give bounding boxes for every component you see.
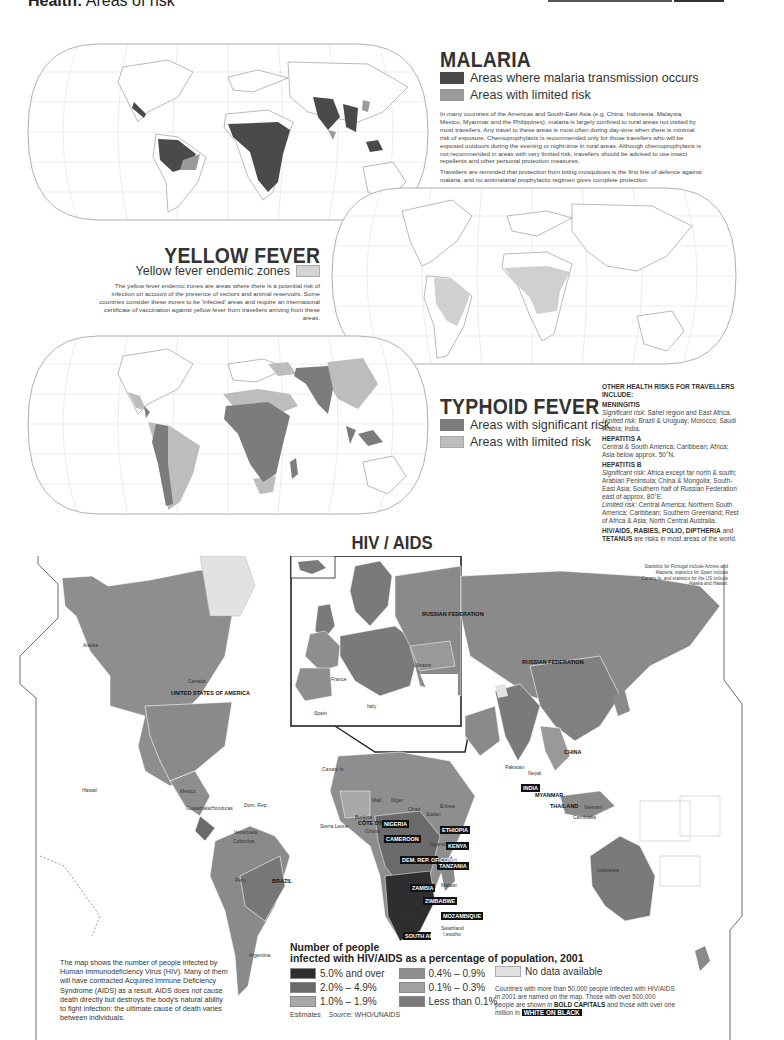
- map-label-canary-is: Canary Is.: [322, 766, 345, 772]
- map-label-china: CHINA: [564, 749, 581, 755]
- malaria-description: In many countries of the Americas and So…: [440, 110, 702, 184]
- map-label-mali: Mali: [372, 797, 381, 803]
- map-label-drc: DEM. REP. OF CONGO: [400, 856, 438, 864]
- map-label-nigeria: NIGERIA: [382, 820, 409, 828]
- map-label-alaska: Alaska: [83, 642, 98, 648]
- map-label-argentina: Argentina: [249, 952, 270, 958]
- map-label-france: France: [331, 676, 347, 682]
- map-label-colombia: Colombia: [233, 838, 254, 844]
- pacific-boundary: [40, 856, 100, 936]
- typhoid-legend-significant: Areas with significant risk: [440, 418, 610, 432]
- middle-east-region: [465, 706, 500, 756]
- legend-label: 0.1% – 0.3%: [429, 982, 486, 993]
- map-label-hawaii: Hawaii: [82, 787, 97, 793]
- legend-label: Areas with limited risk: [470, 88, 591, 102]
- map-label-zimbabwe: ZIMBABWE: [423, 897, 457, 905]
- swatch-typhoid-significant: [440, 419, 464, 431]
- map-label-venezuela: Venezuela: [234, 829, 257, 835]
- hiv-intro-text: The map shows the number of people infec…: [60, 958, 228, 1022]
- map-label-eritrea: Eritrea: [440, 803, 455, 809]
- estimates-label: Estimates: [290, 1011, 321, 1018]
- swatch-hiv-0-4-0-9: [399, 968, 425, 979]
- map-label-pakistan: Pakistan: [505, 764, 524, 770]
- inset-connector: [335, 726, 470, 752]
- map-frame-left: [20, 556, 58, 1040]
- map-label-russia: RUSSIAN FEDERATION: [522, 659, 584, 665]
- new-zealand-region: [695, 946, 710, 971]
- map-label-mexico: Mexico: [180, 788, 196, 794]
- map-label-south-africa: SOUTH AFRICA: [403, 932, 431, 940]
- source-value: WHO/UNAIDS: [353, 1011, 400, 1018]
- map-label-dom-rep: Dom. Rep.: [244, 802, 268, 808]
- swatch-yellow-fever: [296, 265, 320, 277]
- map-label-honduras: Honduras: [211, 805, 233, 811]
- map-label-sierra-leone: Sierra Leone: [320, 823, 349, 829]
- swatch-hiv-lt-0-1: [399, 996, 425, 1007]
- legend-label: 5.0% and over: [320, 968, 385, 979]
- map-label-india: INDIA: [521, 784, 540, 792]
- meningitis-title: MENINGITIS: [602, 401, 742, 409]
- yellow-fever-description: The yellow fever endemic zones are areas…: [98, 282, 320, 322]
- header-bar-right: [674, 0, 724, 2]
- hiv-legend-1-1-9: 1.0% – 1.9%: [290, 996, 385, 1007]
- map-label-russia-inset: RUSSIAN FEDERATION: [422, 611, 466, 617]
- map-label-italy: Italy: [367, 703, 376, 709]
- other-risks-heading: OTHER HEALTH RISKS FOR TRAVELLERS INCLUD…: [602, 383, 742, 399]
- map-label-brazil: BRAZIL: [272, 878, 292, 884]
- map-label-mozambique: MOZAMBIQUE: [441, 912, 483, 920]
- hiv-naming-note: Countries with more than 50,000 people i…: [495, 985, 675, 1017]
- hiv-title-text: HIV / AIDS: [351, 532, 432, 554]
- map-label-namibia: Namibia: [398, 912, 416, 918]
- page-title-bold: Health:: [28, 0, 82, 9]
- hiv-legend-column-1: 5.0% and over 2.0% – 4.9% 1.0% – 1.9%: [290, 968, 385, 1007]
- map-label-sudan: Sudan: [426, 811, 440, 817]
- significant-label: Significant risk:: [602, 469, 646, 476]
- legend-label: 2.0% – 4.9%: [320, 982, 377, 993]
- legend-label: Areas with significant risk: [470, 418, 610, 432]
- source-label: Source:: [329, 1011, 353, 1018]
- hiv-legend-column-2: 0.4% – 0.9% 0.1% – 0.3% Less than 0.1%: [399, 968, 498, 1007]
- hepatitis-b-title: HEPATITIS B: [602, 461, 742, 469]
- other-health-risks: OTHER HEALTH RISKS FOR TRAVELLERS INCLUD…: [602, 383, 742, 543]
- hiv-title: HIV / AIDS: [0, 532, 784, 554]
- map-label-chad: Chad: [408, 806, 420, 812]
- malaria-paragraph-2: Travellers are reminded that protection …: [440, 168, 702, 184]
- map-frame-right: [724, 564, 742, 1040]
- page-title-light: Areas of risk: [82, 0, 174, 9]
- map-label-myanmar: MYANMAR: [535, 792, 563, 798]
- hiv-legend-0-4-0-9: 0.4% – 0.9%: [399, 968, 498, 979]
- swatch-hiv-2-4-9: [290, 982, 316, 993]
- page-title: Health: Areas of risk: [28, 0, 175, 10]
- naming-note-bold: BOLD CAPITALS: [554, 1001, 605, 1008]
- map-label-ukraine: Ukraine: [414, 662, 431, 668]
- map-label-tanzania: TANZANIA: [437, 862, 469, 870]
- naming-note-white-on-black: WHITE ON BLACK: [522, 1009, 582, 1016]
- swatch-hiv-5-plus: [290, 968, 316, 979]
- map-label-vietnam: Vietnam: [584, 804, 602, 810]
- hiv-legend-5-plus: 5.0% and over: [290, 968, 385, 979]
- typhoid-legend: Areas with significant risk Areas with l…: [440, 418, 610, 449]
- swatch-malaria-limited: [440, 89, 464, 101]
- legend-label: 1.0% – 1.9%: [320, 996, 377, 1007]
- meningitis-block: MENINGITIS Significant risk: Sahel regio…: [602, 401, 742, 433]
- statistics-note: Statistics for Portugal include Azores a…: [640, 564, 728, 587]
- map-label-ghana: Ghana: [365, 828, 380, 834]
- map-label-cambodia: Cambodia: [573, 814, 596, 820]
- map-label-indonesia: Indonesia: [597, 867, 619, 873]
- map-label-niger: Niger: [391, 797, 403, 803]
- malaria-paragraph-1: In many countries of the Americas and So…: [440, 110, 702, 165]
- typhoid-map: [28, 334, 428, 516]
- hiv-legend-no-data: No data available: [495, 966, 602, 977]
- legend-label: No data available: [525, 966, 602, 977]
- legend-label: Less than 0.1%: [429, 996, 498, 1007]
- hepatitis-a-text: Central & South America; Caribbean; Afri…: [602, 443, 742, 459]
- swatch-typhoid-limited: [440, 436, 464, 448]
- map-label-zambia: ZAMBIA: [410, 884, 435, 892]
- map-label-cameroon: CAMEROON: [384, 835, 421, 843]
- map-label-peru: Peru: [235, 877, 246, 883]
- swatch-hiv-no-data: [495, 966, 521, 977]
- map-label-uganda: Uganda: [430, 841, 448, 847]
- yellow-fever-legend: Yellow fever endemic zones: [136, 264, 321, 278]
- hepatitis-b-block: HEPATITIS B Significant risk: Africa exc…: [602, 461, 742, 525]
- swatch-hiv-1-1-9: [290, 996, 316, 1007]
